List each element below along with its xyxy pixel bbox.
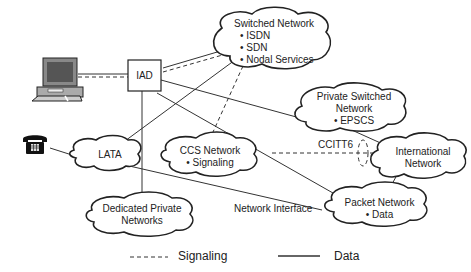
ccs-item-signaling: • Signaling [165,157,255,169]
network-diagram: IAD Switched Network • ISDN • SDN • Noda… [0,0,471,272]
ccs-network-title: CCS Network [165,145,255,157]
dedicated-private-label: Dedicated Private Networks [92,203,192,227]
switched-network-title: Switched Network [230,18,330,30]
packet-network-label: Packet Network • Data [332,197,427,221]
ccitt6-label: CCITT6 [318,139,353,151]
legend-signaling-label: Signaling [178,249,227,263]
packet-network-title: Packet Network [332,197,427,209]
international-title-2: Network [378,158,468,170]
iad-label: IAD [128,70,161,82]
legend-data-label: Data [334,249,359,263]
dedicated-private-title-1: Dedicated Private [92,203,192,215]
telephone-icon [23,135,47,154]
ccs-network-label: CCS Network • Signaling [165,145,255,169]
phone-lata-link [50,148,72,155]
switched-item-isdn: • ISDN [230,30,330,42]
international-title-1: International [378,146,468,158]
iad-switched-signaling [163,54,226,72]
lata-label: LATA [80,149,140,161]
switched-network-label: Switched Network • ISDN • SDN • Nodal Se… [230,18,330,66]
private-switched-title-2: Network [304,103,404,115]
private-switched-label: Private Switched Network • EPSCS [304,91,404,127]
private-switched-title-1: Private Switched [304,91,404,103]
private-switched-item-epscs: • EPSCS [304,115,404,127]
iad-switched-data-link [163,50,224,68]
packet-item-data: • Data [332,209,427,221]
network-interface-label: Network Interface [234,203,312,215]
international-network-label: International Network [378,146,468,170]
switched-item-sdn: • SDN [230,42,330,54]
switched-item-nodal: • Nodal Services [230,54,330,66]
computer-icon [32,58,83,101]
dedicated-private-title-2: Networks [92,215,192,227]
